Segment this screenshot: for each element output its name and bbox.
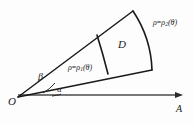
angle-label-beta: β [38, 72, 43, 82]
origin-label: O [8, 96, 16, 107]
outer-rho-argument: (θ) [168, 18, 177, 27]
axis-endpoint-label: A [176, 104, 182, 114]
outer-curve-equation: ρ=ρ2(θ) [153, 19, 177, 27]
angle-label-alpha: α [57, 85, 62, 94]
inner-curve-equation: ρ=ρ1(θ) [68, 64, 92, 72]
polar-region-figure: O A D α β ρ=ρ1(θ) ρ=ρ2(θ) [0, 0, 194, 124]
region-label-d: D [118, 39, 126, 50]
inner-rho-argument: (θ) [83, 63, 92, 72]
